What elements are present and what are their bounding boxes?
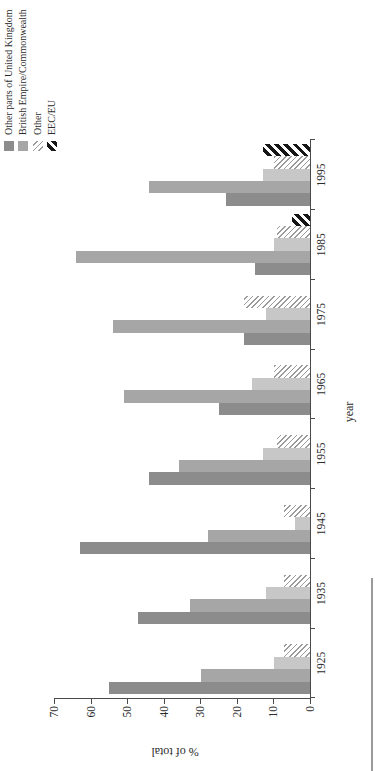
bar-1935-series4 xyxy=(284,575,310,587)
legend-item: Other xyxy=(31,1,45,153)
bar-1985-series4 xyxy=(277,226,310,238)
bar-1995-series1 xyxy=(226,193,310,205)
x-tick-label: 1935 xyxy=(315,571,328,615)
bar-1995-series5 xyxy=(263,144,310,156)
bar-1955-series4 xyxy=(277,435,310,447)
x-tick-mark xyxy=(310,628,315,629)
legend-swatch-bold-hatch-icon xyxy=(47,141,57,151)
legend-item: British Empire/Commonwealth xyxy=(16,1,30,153)
bar-1945-series3 xyxy=(295,517,310,529)
y-tick-mark xyxy=(273,699,274,704)
x-tick-mark xyxy=(310,140,315,141)
page-edge-line xyxy=(371,578,373,771)
bar-1985-series1 xyxy=(255,263,310,275)
x-tick-mark xyxy=(310,209,315,210)
bar-1945-series4 xyxy=(284,505,310,517)
bar-1935-series1 xyxy=(138,612,310,624)
y-tick-label: 50 xyxy=(121,706,134,740)
bar-1935-series2 xyxy=(190,599,310,611)
legend-label: Other xyxy=(31,112,45,135)
bar-1965-series3 xyxy=(252,378,310,390)
bar-1985-series5 xyxy=(292,214,310,226)
x-tick-mark xyxy=(310,558,315,559)
bar-1975-series2 xyxy=(113,320,310,332)
y-axis-title: % of total xyxy=(151,744,198,759)
bar-1965-series2 xyxy=(124,390,310,402)
bar-1985-series3 xyxy=(274,238,311,250)
y-tick-label: 20 xyxy=(231,706,244,740)
legend-label: British Empire/Commonwealth xyxy=(16,9,30,135)
x-tick-mark xyxy=(310,698,315,699)
y-tick-label: 70 xyxy=(48,706,61,740)
bar-1955-series3 xyxy=(263,448,310,460)
y-tick-label: 30 xyxy=(194,706,207,740)
x-tick-mark xyxy=(310,488,315,489)
bar-1985-series2 xyxy=(76,251,310,263)
y-tick-mark xyxy=(237,699,238,704)
legend: Other parts of United Kingdom British Em… xyxy=(2,1,59,153)
y-tick-label: 10 xyxy=(267,706,280,740)
legend-item: Other parts of United Kingdom xyxy=(2,1,16,153)
legend-item: EEC/EU xyxy=(45,1,59,153)
bar-1945-series2 xyxy=(208,530,310,542)
bar-1995-series3 xyxy=(263,169,310,181)
bar-1965-series1 xyxy=(219,403,310,415)
bar-1975-series1 xyxy=(244,333,310,345)
y-tick-mark xyxy=(127,699,128,704)
y-tick-label: 60 xyxy=(85,706,98,740)
x-tick-label: 1925 xyxy=(315,641,328,685)
bar-1925-series3 xyxy=(274,657,311,669)
y-tick-mark xyxy=(310,699,311,704)
rotated-chart-canvas: 0102030405060701925193519451955196519751… xyxy=(0,0,375,771)
legend-swatch-thin-hatch-icon xyxy=(33,141,43,151)
chart-figure: 0102030405060701925193519451955196519751… xyxy=(0,0,375,771)
legend-label: EEC/EU xyxy=(45,100,59,135)
bar-1965-series4 xyxy=(274,365,311,377)
x-tick-label: 1985 xyxy=(315,223,328,267)
bar-1945-series1 xyxy=(80,542,310,554)
y-tick-label: 0 xyxy=(304,706,317,740)
y-tick-label: 40 xyxy=(158,706,171,740)
bar-1995-series4 xyxy=(274,156,311,168)
bar-1955-series1 xyxy=(149,472,310,484)
x-axis-line xyxy=(310,140,311,699)
bar-1925-series1 xyxy=(109,682,310,694)
bar-1995-series2 xyxy=(149,181,310,193)
x-tick-label: 1995 xyxy=(315,153,328,197)
bar-1925-series4 xyxy=(284,644,310,656)
y-axis-line xyxy=(54,698,310,699)
x-tick-label: 1945 xyxy=(315,502,328,546)
bar-1955-series2 xyxy=(179,460,310,472)
legend-swatch-solid-dark-icon xyxy=(4,141,14,151)
bar-1975-series3 xyxy=(266,308,310,320)
x-tick-label: 1975 xyxy=(315,292,328,336)
legend-label: Other parts of United Kingdom xyxy=(2,9,16,135)
bar-1975-series4 xyxy=(244,296,310,308)
bar-1935-series3 xyxy=(266,587,310,599)
legend-swatch-solid-medium-icon xyxy=(18,141,28,151)
x-tick-mark xyxy=(310,419,315,420)
y-tick-mark xyxy=(54,699,55,704)
bar-1925-series2 xyxy=(201,669,311,681)
x-tick-label: 1965 xyxy=(315,362,328,406)
y-tick-mark xyxy=(164,699,165,704)
x-tick-mark xyxy=(310,349,315,350)
y-tick-mark xyxy=(200,699,201,704)
x-tick-label: 1955 xyxy=(315,432,328,476)
x-tick-mark xyxy=(310,279,315,280)
y-tick-mark xyxy=(91,699,92,704)
x-axis-title: year xyxy=(342,391,357,433)
